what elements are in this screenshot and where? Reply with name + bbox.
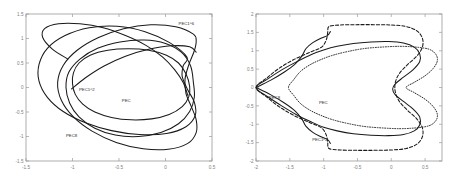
plot-frame — [26, 14, 212, 161]
curve-outer-lobe — [42, 23, 188, 95]
x-tick-label: -1.5 — [286, 165, 294, 170]
x-tick-label: -1.5 — [22, 165, 30, 170]
y-tick-label: 1 — [251, 48, 254, 53]
y-tick-label: 0.5 — [247, 67, 254, 72]
curve-pec — [72, 49, 190, 120]
label-pec8: PEC8 — [269, 95, 281, 100]
x-tick-label: -1 — [70, 165, 75, 170]
annotations-group: PEC1^6PEC1^2PECPEC8 — [66, 21, 195, 139]
plot-frame — [256, 14, 442, 161]
x-tick-label: 0.5 — [209, 165, 216, 170]
label-pec: PEC — [319, 100, 328, 105]
y-tick-label: -1 — [249, 122, 254, 127]
x-tick-label: -2 — [254, 165, 259, 170]
figure-container: -1.5-1-0.500.51.510.50-0.5-1-1.5PEC1^6PE… — [0, 0, 460, 183]
curves-group — [256, 25, 437, 151]
y-tick-label: -1 — [19, 134, 24, 139]
y-tick-label: -0.5 — [246, 104, 254, 109]
plot-panel-right: -2-1.5-1-0.500.521.510.50-0.5-1-1.5-2PEC… — [230, 0, 460, 183]
label-pec8: PEC8 — [66, 133, 78, 138]
y-tick-label: 1.5 — [247, 30, 254, 35]
y-tick-label: 0 — [21, 85, 24, 90]
label-pec1-2: PEC1^2 — [312, 137, 328, 142]
label-pec1-2: PEC1^2 — [79, 87, 95, 92]
y-tick-label: 0 — [251, 85, 254, 90]
y-tick-label: 1 — [21, 36, 24, 41]
x-tick-label: -0.5 — [353, 165, 361, 170]
y-tick-label: -0.5 — [16, 110, 24, 115]
label-pec: PEC — [122, 98, 131, 103]
x-tick-label: -1 — [322, 165, 327, 170]
y-tick-label: 2 — [251, 12, 254, 17]
y-tick-label: -2 — [249, 159, 254, 164]
y-tick-label: -1.5 — [16, 159, 24, 164]
plot-right-svg: -2-1.5-1-0.500.521.510.50-0.5-1-1.5-2PEC… — [230, 0, 460, 183]
x-tick-label: 0.5 — [422, 165, 429, 170]
x-tick-label: -0.5 — [115, 165, 123, 170]
y-tick-label: 0.5 — [17, 61, 24, 66]
curves-group — [38, 23, 197, 150]
axes-box — [26, 14, 212, 161]
x-tick-label: 0 — [390, 165, 393, 170]
plot-panel-left: -1.5-1-0.500.51.510.50-0.5-1-1.5PEC1^6PE… — [0, 0, 230, 183]
axis-ticks: -2-1.5-1-0.500.521.510.50-0.5-1-1.5-2 — [246, 12, 442, 170]
plot-left-svg: -1.5-1-0.500.51.510.50-0.5-1-1.5PEC1^6PE… — [0, 0, 230, 183]
label-pec1-6: PEC1^6 — [179, 21, 195, 26]
y-tick-label: -1.5 — [246, 140, 254, 145]
curve-pec — [288, 46, 437, 128]
axes-box — [256, 14, 442, 161]
x-tick-label: 0 — [164, 165, 167, 170]
y-tick-label: 1.5 — [17, 12, 24, 17]
